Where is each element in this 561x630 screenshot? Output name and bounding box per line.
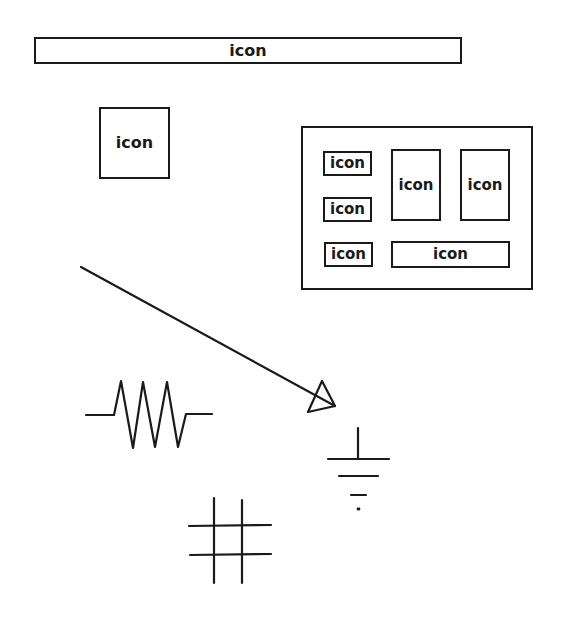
diagram-canvas: icon icon icon icon icon icon icon icon <box>0 0 561 630</box>
ground-icon <box>328 428 389 509</box>
symbols-layer <box>0 0 561 630</box>
resistor-icon <box>86 381 212 448</box>
grid-icon <box>189 498 271 583</box>
